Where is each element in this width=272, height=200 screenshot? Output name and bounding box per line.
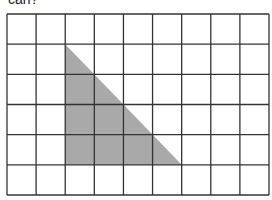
grid-lines xyxy=(7,14,269,195)
grid-diagram xyxy=(0,0,272,200)
